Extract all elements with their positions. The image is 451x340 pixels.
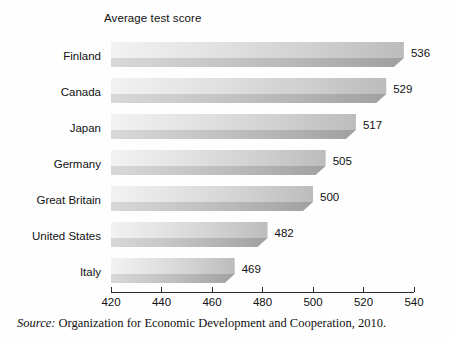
category-label: Japan	[70, 122, 101, 134]
x-tick-label: 500	[303, 296, 322, 308]
bar-top-face	[111, 222, 268, 238]
bar-value-label: 529	[393, 83, 412, 95]
bar-bottom-face	[111, 58, 404, 67]
category-label: Great Britain	[36, 194, 101, 206]
x-tick-labels-group: 420440460480500520540	[101, 296, 423, 308]
category-label: Finland	[63, 50, 101, 62]
bar-chart-plot: FinlandCanadaJapanGermanyGreat BritainUn…	[0, 0, 451, 340]
bar-top-face	[111, 150, 326, 166]
category-labels-group: FinlandCanadaJapanGermanyGreat BritainUn…	[32, 50, 102, 278]
x-tick-label: 480	[253, 296, 272, 308]
bar	[111, 78, 386, 103]
bar-value-label: 469	[242, 263, 261, 275]
bar-value-label: 536	[411, 47, 430, 59]
bar-value-label: 500	[320, 191, 339, 203]
bar-bottom-face	[111, 238, 268, 247]
category-label: Germany	[54, 158, 102, 170]
bar-value-label: 505	[333, 155, 352, 167]
source-text: Organization for Economic Development an…	[59, 316, 386, 330]
x-tick-label: 460	[202, 296, 221, 308]
bar	[111, 258, 235, 283]
bar-bottom-face	[111, 166, 326, 175]
source-note: Source: Organization for Economic Develo…	[17, 316, 386, 331]
bar-top-face	[111, 42, 404, 58]
bar-top-face	[111, 258, 235, 274]
bar-bottom-face	[111, 94, 386, 103]
category-label: United States	[32, 230, 101, 242]
bar-value-label: 482	[275, 227, 294, 239]
bar-top-face	[111, 114, 356, 130]
bar	[111, 114, 356, 139]
bar	[111, 186, 313, 211]
bar-top-face	[111, 78, 386, 94]
x-tick-label: 420	[101, 296, 120, 308]
bar-bottom-face	[111, 202, 313, 211]
chart-figure: Average test score FinlandCanadaJapanGer…	[0, 0, 451, 340]
bar-bottom-face	[111, 130, 356, 139]
x-axis	[111, 287, 414, 292]
bar	[111, 150, 326, 175]
bar	[111, 222, 268, 247]
bar-bottom-face	[111, 274, 235, 283]
category-label: Italy	[80, 266, 101, 278]
x-tick-label: 520	[354, 296, 373, 308]
category-label: Canada	[61, 86, 102, 98]
bar	[111, 42, 404, 67]
bar-value-label: 517	[363, 119, 382, 131]
bar-top-face	[111, 186, 313, 202]
bars-group	[111, 42, 404, 283]
x-tick-label: 440	[152, 296, 171, 308]
x-tick-label: 540	[404, 296, 423, 308]
source-prefix: Source:	[17, 316, 55, 330]
